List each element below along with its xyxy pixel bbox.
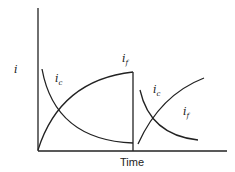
ic-label-left: ic bbox=[55, 72, 62, 87]
ic-curve-2 bbox=[140, 90, 198, 140]
if-label-top: if bbox=[122, 52, 128, 67]
y-axis-label: i bbox=[14, 63, 18, 76]
if-curve-1 bbox=[38, 72, 133, 150]
x-axis-label: Time bbox=[120, 156, 144, 168]
plot-area bbox=[0, 0, 235, 172]
if-label-right: if bbox=[183, 105, 189, 120]
ic-label-right: ic bbox=[153, 83, 160, 98]
diagram: i if ic ic if Time bbox=[0, 0, 235, 172]
